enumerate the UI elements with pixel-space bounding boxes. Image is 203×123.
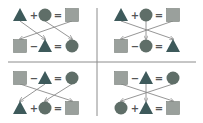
circle-shape xyxy=(140,9,153,22)
arrow xyxy=(45,21,72,39)
equals-operator: = xyxy=(54,10,62,21)
triangle-shape xyxy=(139,101,153,114)
plus-operator: + xyxy=(131,103,139,114)
circle-shape xyxy=(39,9,52,22)
minus-operator: − xyxy=(30,41,38,52)
circle-shape xyxy=(66,72,79,85)
square-shape xyxy=(66,102,79,115)
square-shape xyxy=(167,102,180,115)
arrow xyxy=(20,21,45,39)
triangle-shape xyxy=(139,71,153,84)
arrow xyxy=(45,84,72,101)
square-shape xyxy=(115,40,128,53)
plus-operator: + xyxy=(131,10,139,21)
arrow xyxy=(20,21,72,39)
equals-operator: = xyxy=(155,10,163,21)
arrow xyxy=(20,84,72,101)
square-shape xyxy=(14,72,27,85)
triangle-shape xyxy=(13,8,27,21)
arrow xyxy=(20,84,45,101)
minus-operator: − xyxy=(131,41,139,52)
plus-operator: + xyxy=(30,10,38,21)
equals-operator: = xyxy=(54,41,62,52)
plus-operator: + xyxy=(30,103,38,114)
circle-shape xyxy=(140,40,153,53)
equals-operator: = xyxy=(54,103,62,114)
triangle-shape xyxy=(114,8,128,21)
shape-equation-diagram: +=−=+=−=−=+=−=+= xyxy=(0,0,203,123)
square-shape xyxy=(66,9,79,22)
circle-shape xyxy=(39,102,52,115)
circle-shape xyxy=(115,102,128,115)
equals-operator: = xyxy=(54,73,62,84)
panel-top-right: +=−= xyxy=(114,8,180,53)
minus-operator: − xyxy=(131,73,139,84)
panel-bottom-left: −=+= xyxy=(13,71,79,115)
panel-bottom-right: −=+= xyxy=(115,71,180,115)
triangle-shape xyxy=(13,101,27,114)
panel-top-left: +=−= xyxy=(13,8,79,53)
equals-operator: = xyxy=(155,103,163,114)
equals-operator: = xyxy=(155,73,163,84)
triangle-shape xyxy=(38,39,52,52)
square-shape xyxy=(14,40,27,53)
circle-shape xyxy=(66,40,79,53)
triangle-shape xyxy=(166,39,180,52)
triangle-shape xyxy=(38,71,52,84)
minus-operator: − xyxy=(30,73,38,84)
circle-shape xyxy=(167,72,180,85)
equals-operator: = xyxy=(155,41,163,52)
square-shape xyxy=(115,72,128,85)
square-shape xyxy=(167,9,180,22)
